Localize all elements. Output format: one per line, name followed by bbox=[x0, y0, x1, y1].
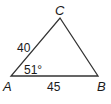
vertex-label-b: B bbox=[97, 79, 106, 94]
triangle-diagram: C A B 40 51° 45 bbox=[0, 0, 111, 104]
side-label-ab: 45 bbox=[47, 80, 61, 94]
side-label-ac: 40 bbox=[17, 41, 31, 55]
vertex-label-c: C bbox=[55, 3, 65, 18]
vertex-label-a: A bbox=[2, 79, 12, 94]
angle-label-a: 51° bbox=[24, 63, 42, 77]
